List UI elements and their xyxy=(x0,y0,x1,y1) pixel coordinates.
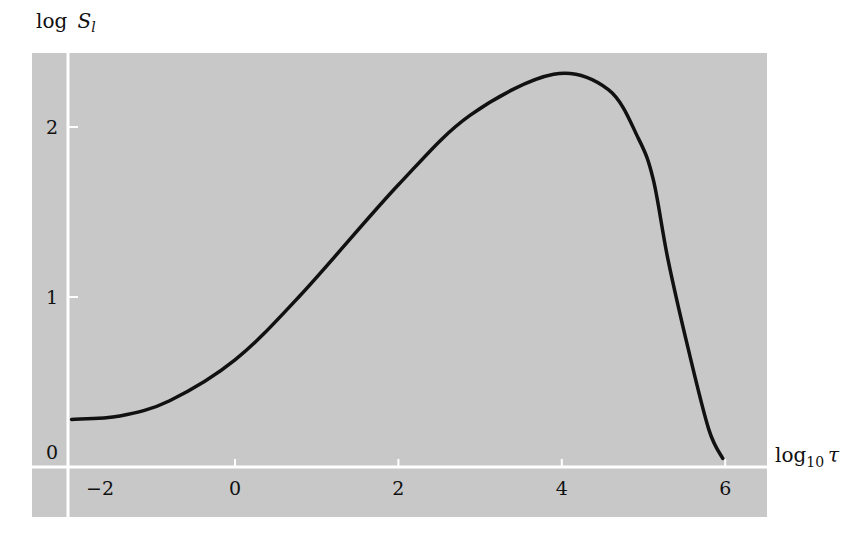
x-tick-label: −2 xyxy=(86,477,114,499)
chart: −20246 012 log Sl log10τ xyxy=(0,0,859,534)
y-tick-label: 1 xyxy=(46,286,58,308)
x-tick-label: 6 xyxy=(719,477,731,499)
x-axis-label: log10τ xyxy=(775,443,840,470)
plot-panel xyxy=(32,53,767,517)
x-tick-label: 0 xyxy=(229,477,241,499)
x-tick-label: 4 xyxy=(556,477,568,499)
x-tick-label: 2 xyxy=(392,477,404,499)
y-tick-label: 0 xyxy=(46,441,58,463)
y-axis-label: log Sl xyxy=(36,9,96,35)
y-tick-label: 2 xyxy=(46,116,58,138)
